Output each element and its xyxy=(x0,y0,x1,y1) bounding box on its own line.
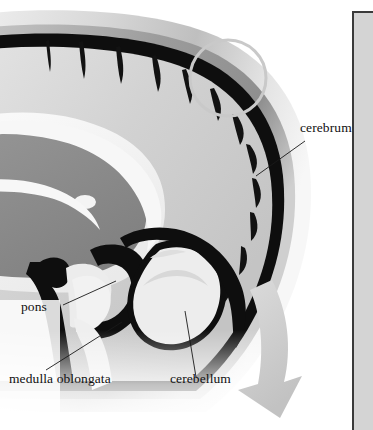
left-fade xyxy=(0,300,60,430)
brain-illustration xyxy=(0,0,373,430)
label-medulla-oblongata: medulla oblongata xyxy=(9,371,111,387)
brain-diagram-figure: cerebrum pons medulla oblongata cerebell… xyxy=(0,0,373,430)
label-pons: pons xyxy=(21,299,47,315)
side-panel xyxy=(352,11,373,430)
label-cerebrum: cerebrum xyxy=(300,120,352,136)
label-cerebellum: cerebellum xyxy=(170,371,231,387)
